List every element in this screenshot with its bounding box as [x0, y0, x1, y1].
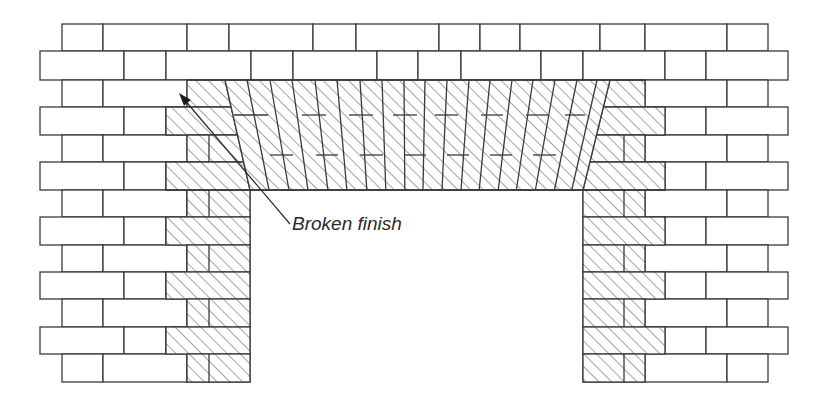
- brick: [665, 51, 706, 80]
- brick: [103, 80, 187, 107]
- brick: [293, 51, 377, 80]
- brick: [727, 354, 768, 382]
- left-jamb-brick: [166, 327, 250, 354]
- brick: [62, 190, 103, 217]
- brick: [40, 327, 124, 354]
- brick-course: [62, 24, 768, 51]
- right-jamb-brick: [583, 299, 645, 327]
- brick-courses: [40, 24, 788, 382]
- left-abutment-brick: [166, 162, 250, 190]
- right-abutment-brick: [583, 162, 665, 190]
- left-jamb-brick: [166, 217, 250, 245]
- brick: [706, 217, 788, 245]
- brick: [706, 162, 788, 190]
- brick: [706, 51, 788, 80]
- brick: [124, 272, 166, 299]
- brick: [541, 51, 583, 80]
- brick: [706, 327, 788, 354]
- left-abutment-brick: [187, 80, 231, 107]
- brick: [583, 51, 665, 80]
- brick: [377, 51, 418, 80]
- brick: [40, 272, 124, 299]
- brick: [727, 299, 768, 327]
- brick: [665, 107, 706, 135]
- brick-course: [40, 272, 788, 299]
- brick: [62, 80, 103, 107]
- brick: [62, 135, 103, 162]
- brick: [665, 272, 706, 299]
- brick: [103, 245, 187, 272]
- brick: [251, 51, 293, 80]
- voussoir-joint: [404, 80, 405, 190]
- brick: [727, 80, 768, 107]
- right-jamb-brick: [583, 217, 665, 245]
- brick: [727, 245, 768, 272]
- brick: [706, 272, 788, 299]
- brick: [645, 80, 727, 107]
- right-jamb-brick: [583, 245, 645, 272]
- right-abutment-brick: [597, 107, 666, 135]
- brick: [62, 299, 103, 327]
- brick-course: [62, 190, 768, 217]
- brick: [645, 24, 727, 51]
- brick: [103, 24, 187, 51]
- brick: [645, 354, 727, 382]
- brick-course: [40, 327, 788, 354]
- brick: [520, 24, 600, 51]
- brick: [62, 354, 103, 382]
- brick-course: [40, 217, 788, 245]
- brick: [461, 51, 541, 80]
- brick: [645, 299, 727, 327]
- brick: [356, 24, 439, 51]
- brick: [645, 135, 727, 162]
- right-jamb-brick: [583, 327, 665, 354]
- brick-course: [62, 299, 768, 327]
- brick: [62, 24, 103, 51]
- brick: [313, 24, 356, 51]
- brick: [124, 327, 166, 354]
- annotation-label-broken-finish: Broken finish: [292, 213, 402, 235]
- brick: [418, 51, 461, 80]
- brick: [40, 217, 124, 245]
- brick: [480, 24, 520, 51]
- left-jamb-brick: [166, 272, 250, 299]
- right-jamb-brick: [583, 272, 665, 299]
- brick: [124, 51, 166, 80]
- brick: [665, 162, 706, 190]
- brick: [439, 24, 480, 51]
- left-jamb-brick: [187, 245, 250, 272]
- brick: [40, 162, 124, 190]
- brick: [124, 217, 166, 245]
- brick: [103, 299, 187, 327]
- brick-course: [62, 245, 768, 272]
- brick-wall-diagram: [0, 0, 830, 399]
- left-jamb-brick: [187, 354, 250, 382]
- right-jamb-brick: [583, 190, 645, 217]
- brick: [124, 162, 166, 190]
- brick: [40, 107, 124, 135]
- brick: [665, 327, 706, 354]
- left-jamb-brick: [187, 190, 250, 217]
- brick: [600, 24, 645, 51]
- brick: [645, 245, 727, 272]
- brick: [166, 51, 251, 80]
- brick-course: [40, 51, 788, 80]
- brick: [727, 24, 768, 51]
- brick: [124, 107, 166, 135]
- brick: [103, 354, 187, 382]
- brick: [727, 135, 768, 162]
- brick: [103, 190, 187, 217]
- brick: [706, 107, 788, 135]
- brick-course: [62, 354, 768, 382]
- brick: [103, 135, 187, 162]
- left-abutment-brick: [187, 135, 244, 162]
- brick: [187, 24, 229, 51]
- brick: [727, 190, 768, 217]
- left-jamb-brick: [187, 299, 250, 327]
- brick: [229, 24, 313, 51]
- brick: [645, 190, 727, 217]
- brick: [62, 245, 103, 272]
- right-jamb-brick: [583, 354, 645, 382]
- brick: [40, 51, 124, 80]
- brick: [665, 217, 706, 245]
